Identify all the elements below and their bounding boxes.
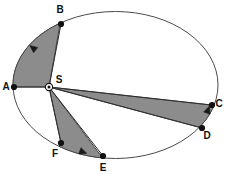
- point-label-b: B: [56, 4, 63, 15]
- orbit-point-marker: [209, 102, 215, 108]
- focus-label-s: S: [56, 74, 63, 85]
- orbit-point-marker: [100, 153, 106, 159]
- orbit-point-marker: [11, 84, 17, 90]
- orbit-point-marker: [58, 140, 64, 146]
- sector-a-s-b: [13, 23, 60, 87]
- focus-dot-icon: [48, 86, 51, 89]
- point-label-c: C: [215, 98, 222, 109]
- diagram-canvas: A B C D E F S: [0, 0, 227, 174]
- point-label-e: E: [100, 162, 107, 173]
- point-label-d: D: [203, 130, 210, 141]
- sectors-group: [13, 23, 214, 158]
- kepler-diagram: A B C D E F S: [0, 0, 227, 174]
- point-label-f: F: [52, 148, 58, 159]
- point-label-a: A: [2, 81, 9, 92]
- focus-marker: [45, 83, 52, 90]
- orbit-point-marker: [58, 21, 64, 27]
- point-labels-group: A B C D E F S: [2, 4, 222, 173]
